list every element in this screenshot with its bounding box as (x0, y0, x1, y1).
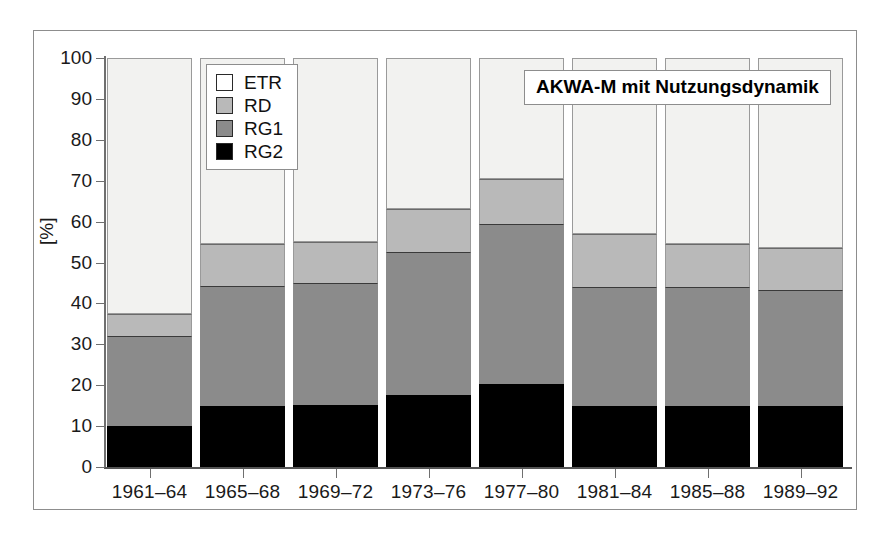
y-axis-tick (96, 426, 105, 427)
legend-swatch-icon (216, 97, 233, 114)
bar-segment-rg2 (665, 406, 750, 467)
bar-segment-rd (758, 248, 843, 290)
bar-segment-rd (386, 209, 471, 252)
bar-segment-rg1 (200, 286, 285, 407)
y-axis-tick-label: 0 (30, 457, 92, 476)
y-axis-tick-labels: 1009080706050403020100 (26, 0, 92, 536)
legend-swatch-icon (216, 74, 233, 91)
legend-label: RG1 (244, 119, 283, 138)
bar-segment-rg2 (293, 405, 378, 467)
y-axis-tick (96, 181, 105, 182)
chart-title-box: AKWA-M mit Nutzungsdynamik (524, 70, 831, 105)
bar-segment-rg1 (293, 283, 378, 405)
bar-segment-rg1 (758, 290, 843, 407)
bar-segment-rg2 (572, 406, 657, 467)
legend-label: ETR (244, 73, 282, 92)
bar-segment-rg2 (479, 384, 564, 467)
x-axis-tick (150, 469, 151, 478)
y-axis-label: [%] (36, 218, 58, 245)
bar-segment-etr (386, 58, 471, 209)
bar-segment-etr (293, 58, 378, 242)
bar-1981-84 (572, 58, 657, 467)
legend-item-rd: RD (216, 94, 283, 117)
y-axis-tick (96, 222, 105, 223)
y-axis-tick (96, 385, 105, 386)
x-axis-line (104, 467, 852, 469)
bar-1973-76 (386, 58, 471, 467)
bar-segment-rg1 (479, 224, 564, 384)
bar-segment-rg2 (758, 406, 843, 467)
legend-label: RD (244, 96, 271, 115)
bar-segment-rd (107, 314, 192, 336)
chart-legend: ETRRDRG1RG2 (206, 64, 298, 170)
bar-segment-rg1 (665, 287, 750, 406)
bar-segment-rd (200, 244, 285, 286)
chart-figure: 1009080706050403020100 [%] ETRRDRG1RG2 A… (0, 0, 883, 536)
x-axis-tick (429, 469, 430, 478)
legend-swatch-icon (216, 143, 233, 160)
x-axis-tick (336, 469, 337, 478)
bar-segment-rg1 (572, 287, 657, 406)
legend-label: RG2 (244, 142, 283, 161)
y-axis-tick (96, 344, 105, 345)
chart-title: AKWA-M mit Nutzungsdynamik (536, 76, 819, 98)
bar-segment-rd (572, 234, 657, 287)
y-axis-tick-label: 10 (30, 416, 92, 435)
y-axis-tick (96, 263, 105, 264)
y-axis-tick (96, 58, 105, 59)
x-axis-tick (243, 469, 244, 478)
bar-segment-rg1 (107, 336, 192, 426)
y-axis-tick-label: 90 (30, 89, 92, 108)
y-axis-tick (96, 99, 105, 100)
bar-1961-64 (107, 58, 192, 467)
bar-segment-rd (665, 244, 750, 287)
bar-segment-rd (293, 242, 378, 283)
bar-1989-92 (758, 58, 843, 467)
y-axis-tick-label: 100 (30, 48, 92, 67)
x-axis-tick (708, 469, 709, 478)
y-axis-tick-label: 50 (30, 253, 92, 272)
y-axis-tick-label: 70 (30, 171, 92, 190)
legend-item-rg1: RG1 (216, 117, 283, 140)
bar-segment-rg2 (386, 395, 471, 467)
bar-segment-rd (479, 179, 564, 224)
y-axis-tick (96, 140, 105, 141)
legend-swatch-icon (216, 120, 233, 137)
y-axis-tick (96, 303, 105, 304)
bar-segment-etr (107, 58, 192, 314)
y-axis-tick-label: 30 (30, 334, 92, 353)
bar-1985-88 (665, 58, 750, 467)
y-axis-tick-label: 40 (30, 293, 92, 312)
bar-1969-72 (293, 58, 378, 467)
bar-segment-rg2 (200, 406, 285, 467)
bar-1977-80 (479, 58, 564, 467)
y-axis-tick (96, 467, 105, 468)
x-axis-tick-label: 1989–92 (746, 481, 856, 503)
x-axis-tick (522, 469, 523, 478)
legend-item-rg2: RG2 (216, 140, 283, 163)
bar-segment-rg1 (386, 252, 471, 395)
y-axis-tick-label: 20 (30, 375, 92, 394)
x-axis-tick (615, 469, 616, 478)
y-axis-tick-label: 80 (30, 130, 92, 149)
bar-segment-rg2 (107, 426, 192, 467)
legend-item-etr: ETR (216, 71, 283, 94)
x-axis-tick (801, 469, 802, 478)
